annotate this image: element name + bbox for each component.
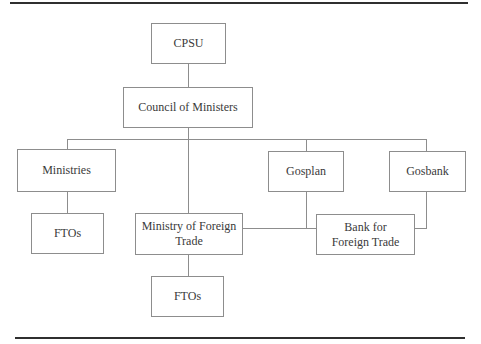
connector-bus-gosbank	[426, 139, 427, 151]
ftos-under-ministries-label: FTOs	[54, 226, 81, 241]
node-gosplan: Gosplan	[268, 151, 344, 192]
org-chart-figure: CPSU Council of Ministers Ministries FTO…	[0, 0, 481, 344]
connector-bft-gosbank	[415, 228, 427, 229]
cpsu-label: CPSU	[173, 36, 203, 51]
connector-cpsu-council	[188, 64, 189, 87]
connector-bus-line	[67, 139, 427, 140]
council-of-ministers-label: Council of Ministers	[138, 100, 237, 115]
connector-bus-ministries	[67, 139, 68, 149]
node-ftos-under-ministries: FTOs	[31, 213, 104, 254]
node-ministry-of-foreign-trade: Ministry of Foreign Trade	[135, 213, 243, 255]
ministries-label: Ministries	[42, 163, 91, 178]
node-council-of-ministers: Council of Ministers	[123, 87, 253, 128]
connector-mft-bft	[243, 228, 316, 229]
connector-gosbank-down	[426, 192, 427, 229]
bank-for-foreign-trade-label: Bank for Foreign Trade	[332, 220, 400, 250]
ftos-under-mft-label: FTOs	[174, 289, 201, 304]
node-ministries: Ministries	[17, 149, 116, 192]
connector-bus-gosplan	[306, 139, 307, 151]
connector-council-mft	[188, 128, 189, 213]
node-bank-for-foreign-trade: Bank for Foreign Trade	[316, 214, 415, 255]
ministry-of-foreign-trade-label: Ministry of Foreign Trade	[142, 219, 237, 249]
node-cpsu: CPSU	[151, 23, 226, 64]
connector-ministries-ftos	[67, 192, 68, 213]
top-rule	[10, 2, 468, 4]
connector-gosplan-down	[306, 192, 307, 229]
bottom-rule	[15, 337, 465, 339]
node-gosbank: Gosbank	[389, 151, 466, 192]
connector-mft-ftos	[188, 255, 189, 276]
gosplan-label: Gosplan	[286, 164, 326, 179]
gosbank-label: Gosbank	[406, 164, 449, 179]
node-ftos-under-mft: FTOs	[151, 276, 224, 317]
